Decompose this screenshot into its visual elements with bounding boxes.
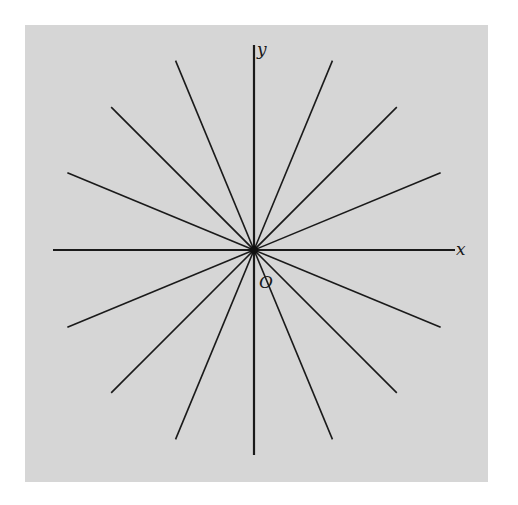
- y-axis-label: y: [256, 39, 267, 59]
- origin-point: [250, 246, 258, 254]
- figure: x y O: [0, 0, 518, 505]
- x-axis-label: x: [456, 239, 466, 259]
- origin-label: O: [259, 272, 273, 292]
